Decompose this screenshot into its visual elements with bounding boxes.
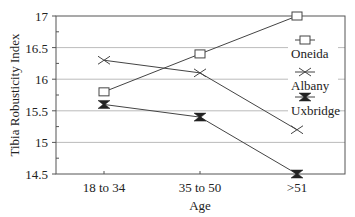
- legend: OneidaAlbanyUxbridge: [288, 36, 340, 118]
- square-marker: [195, 50, 205, 58]
- hourglass-marker: [98, 100, 110, 108]
- square-marker: [99, 88, 109, 96]
- x-tick-label: >51: [287, 180, 307, 195]
- legend-label-albany: Albany: [291, 78, 330, 93]
- y-axis-label: Tibia Robusticity Index: [7, 33, 22, 157]
- x-marker: [194, 69, 206, 77]
- x-marker: [98, 56, 110, 64]
- y-tick-label: 17: [35, 9, 49, 24]
- y-tick-label: 14.5: [25, 167, 48, 182]
- x-tick-label: 35 to 50: [179, 180, 222, 195]
- x-axis-ticks: 18 to 3435 to 50>51: [83, 171, 307, 195]
- y-tick-label: 15.5: [25, 104, 48, 119]
- y-tick-label: 16: [35, 72, 49, 87]
- x-tick-label: 18 to 34: [83, 180, 126, 195]
- square-marker: [300, 36, 310, 44]
- y-tick-label: 15: [35, 135, 48, 150]
- y-axis-ticks: 14.51515.51616.517: [25, 9, 59, 182]
- x-marker: [291, 126, 303, 134]
- legend-label-uxbridge: Uxbridge: [291, 103, 340, 118]
- square-marker: [292, 12, 302, 20]
- series-lines: [98, 12, 303, 178]
- legend-label-oneida: Oneida: [291, 46, 329, 61]
- hourglass-marker: [194, 113, 206, 121]
- line-chart: 14.51515.51616.517 18 to 3435 to 50>51 O…: [0, 0, 355, 217]
- x-axis-label: Age: [189, 198, 211, 213]
- y-tick-label: 16.5: [25, 41, 48, 56]
